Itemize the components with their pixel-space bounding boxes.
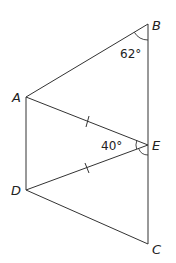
angle-arc-aed: [136, 141, 137, 150]
angle-arc-b: [134, 32, 148, 40]
segment-ae: [26, 97, 148, 145]
point-label-a: A: [11, 90, 21, 105]
angle-label-aed: 40°: [101, 139, 122, 153]
angle-arc-dec: [139, 149, 148, 156]
geometry-diagram: B A E D C 62° 40°: [0, 0, 176, 263]
point-label-b: B: [152, 18, 161, 33]
point-label-c: C: [152, 242, 162, 257]
segment-dc: [26, 190, 148, 244]
point-label-d: D: [11, 183, 21, 198]
angle-label-b: 62°: [120, 47, 141, 61]
point-label-e: E: [152, 138, 161, 153]
